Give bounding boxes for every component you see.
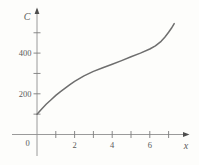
x-tick-label-6: 6 [148,140,152,150]
curve-group [37,24,174,115]
cost-curve [37,24,174,115]
cost-function-figure: 200400246 C x 0 [0,0,199,165]
chart-canvas: 200400246 C x 0 [0,0,199,165]
y-axis-arrow-icon [35,8,40,15]
y-axis-label: C [24,11,31,22]
ticks-group [34,33,169,138]
y-tick-label-200: 200 [19,89,32,99]
x-tick-label-4: 4 [110,140,115,150]
x-tick-label-2: 2 [72,140,76,150]
x-axis-label: x [183,140,189,151]
y-tick-label-400: 400 [19,48,32,58]
x-axis-arrow-icon [183,132,190,137]
origin-tick-label: 0 [25,138,29,148]
